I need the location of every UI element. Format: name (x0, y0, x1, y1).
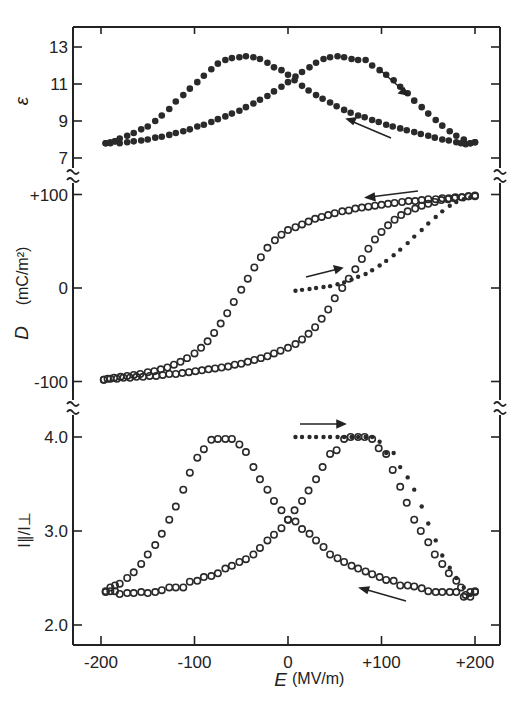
y-tick-label: +100 (30, 186, 68, 205)
series-middle (101, 193, 479, 383)
arrow-right-icon-bottom (300, 421, 345, 428)
y-tick-label: -100 (34, 373, 68, 392)
x-tick-label: -100 (177, 653, 211, 672)
series-bottom (102, 436, 478, 600)
x-tick-label: -200 (84, 653, 118, 672)
y-tick-label: 9 (59, 112, 68, 131)
arrow-right-icon-middle (306, 266, 342, 277)
arrow-right-icon-top (380, 70, 408, 95)
series-middle (101, 192, 479, 383)
y-tick-label: 11 (50, 75, 68, 94)
data-series (101, 53, 479, 600)
svg-text:(MV/m): (MV/m) (292, 670, 344, 687)
x-label-field: E (MV/m) (274, 669, 344, 690)
svg-text:(mC/m²): (mC/m²) (14, 247, 31, 306)
x-tick-label: +100 (362, 653, 400, 672)
x-tick-label: +200 (456, 653, 494, 672)
y-tick-label: 2.0 (44, 616, 68, 635)
series-middle (293, 195, 472, 293)
svg-text:E: E (274, 669, 287, 690)
svg-text:D: D (11, 326, 32, 340)
y-tick-label: 7 (59, 149, 68, 168)
hysteresis-figure: 131197+1000-1004.03.02.0-200-1000+100+20… (0, 0, 525, 703)
y-tick-label: 13 (49, 38, 68, 57)
y-tick-label: 3.0 (44, 522, 68, 541)
y-tick-label: 4.0 (44, 428, 68, 447)
series-top (102, 53, 478, 147)
direction-arrows (300, 70, 418, 601)
y-label-epsilon: ε (11, 96, 32, 105)
y-label-intensity-ratio: I∥/I⊥ (16, 512, 34, 547)
y-label-displacement: D (mC/m²) (11, 247, 32, 340)
y-tick-label: 0 (59, 279, 68, 298)
